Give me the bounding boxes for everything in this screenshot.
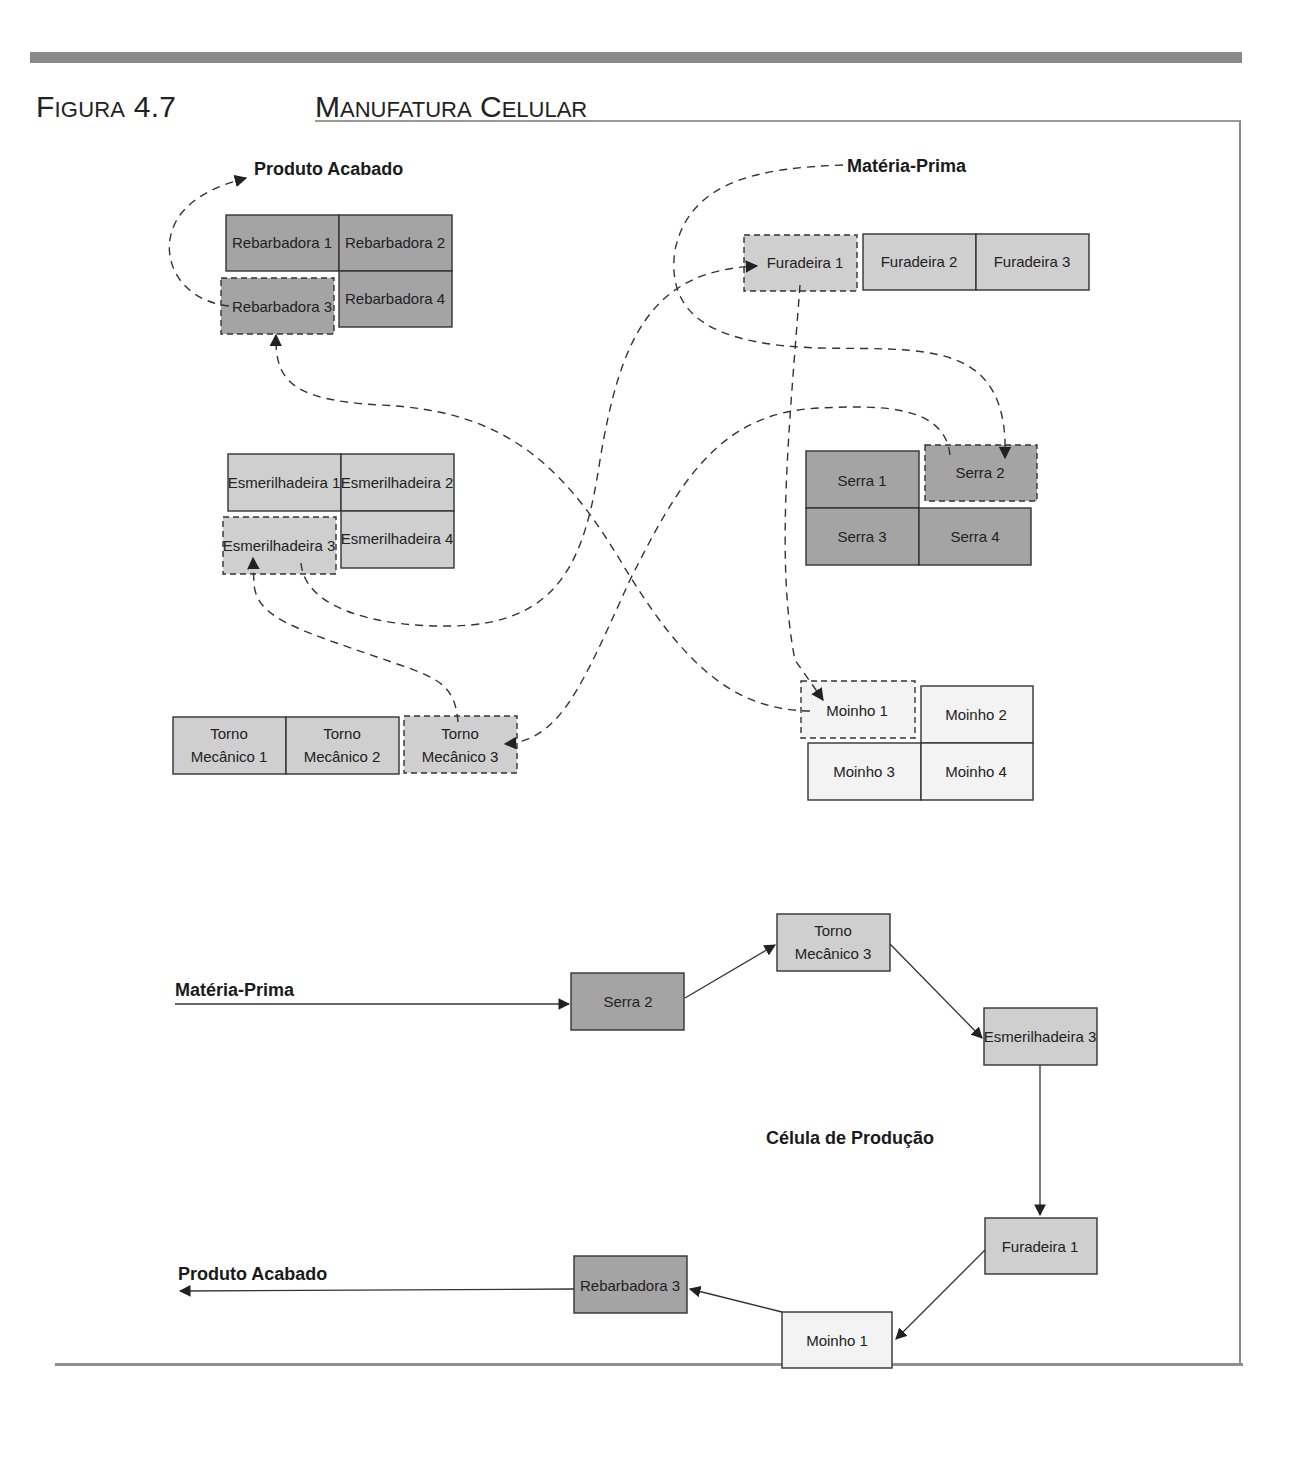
machine-label: Moinho 4: [945, 763, 1007, 780]
group-serras: Serra 1 Serra 2 Serra 3 Serra 4: [806, 445, 1037, 565]
machine-label: Mecânico 2: [304, 748, 381, 765]
machine-label: Torno: [441, 725, 479, 742]
cell-output-label: Produto Acabado: [178, 1264, 327, 1284]
arrow-moinho1-to-rebarbadora3: [690, 1289, 782, 1312]
machine-label: Furadeira 3: [994, 253, 1071, 270]
group-tornos: Torno Mecânico 1 Torno Mecânico 2 Torno …: [173, 716, 517, 774]
arrow-rebarbadora3-to-finished: [180, 1289, 574, 1291]
group-esmerilhadeiras: Esmerilhadeira 1 Esmerilhadeira 2 Esmeri…: [223, 454, 454, 574]
cell-step-label: Rebarbadora 3: [580, 1277, 680, 1294]
cell-step-label: Moinho 1: [806, 1332, 868, 1349]
cellular-manufacturing-diagram: Produto Acabado Matéria-Prima Rebarbador…: [0, 0, 1309, 1479]
machine-label: Mecânico 3: [422, 748, 499, 765]
machine-label: Serra 3: [837, 528, 886, 545]
cell-step-label: Torno: [814, 922, 852, 939]
machine-label: Rebarbadora 4: [345, 290, 445, 307]
machine-label: Moinho 2: [945, 706, 1007, 723]
machine-label: Torno: [323, 725, 361, 742]
machine-label: Esmerilhadeira 3: [223, 537, 336, 554]
cell-step-label: Esmerilhadeira 3: [984, 1028, 1097, 1045]
label-raw-material-top: Matéria-Prima: [847, 156, 967, 176]
group-rebarbadoras: Rebarbadora 1 Rebarbadora 2 Rebarbadora …: [221, 215, 452, 334]
machine-label: Mecânico 1: [191, 748, 268, 765]
machine-label: Moinho 1: [826, 702, 888, 719]
machine-label: Esmerilhadeira 1: [228, 474, 341, 491]
arrow-furadeira1-to-moinho1: [896, 1250, 985, 1339]
cell-input-label: Matéria-Prima: [175, 980, 295, 1000]
arrow-serra2-to-torno3: [685, 945, 775, 998]
machine-label: Serra 1: [837, 472, 886, 489]
machine-label: Furadeira 2: [881, 253, 958, 270]
machine-label: Torno: [210, 725, 248, 742]
machine-label: Serra 4: [950, 528, 999, 545]
machine-label: Rebarbadora 2: [345, 234, 445, 251]
machine-label: Moinho 3: [833, 763, 895, 780]
label-finished-product-top: Produto Acabado: [254, 159, 403, 179]
cell-step-label: Serra 2: [603, 993, 652, 1010]
group-furadeiras: Furadeira 1 Furadeira 2 Furadeira 3: [744, 234, 1089, 291]
group-moinhos: Moinho 1 Moinho 2 Moinho 3 Moinho 4: [801, 681, 1033, 800]
arrow-torno3-to-esmerilhadeira3: [890, 944, 982, 1038]
machine-label: Esmerilhadeira 4: [341, 530, 454, 547]
machine-label: Serra 2: [955, 464, 1004, 481]
cell-step-label: Furadeira 1: [1002, 1238, 1079, 1255]
machine-label: Rebarbadora 3: [232, 298, 332, 315]
machine-label: Rebarbadora 1: [232, 234, 332, 251]
flow-arrow-torno3-to-esmerilhadeira3: [253, 558, 458, 722]
cell-step-label: Mecânico 3: [795, 945, 872, 962]
flow-arrow-raw-to-serra2: [674, 165, 1005, 458]
machine-label: Furadeira 1: [767, 254, 844, 271]
machine-label: Esmerilhadeira 2: [341, 474, 454, 491]
cell-title: Célula de Produção: [766, 1128, 934, 1148]
